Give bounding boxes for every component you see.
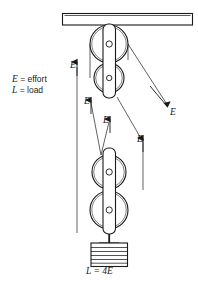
load-hanger: [99, 234, 119, 243]
load-equation-text: L = 4E: [86, 266, 113, 276]
force-label-e3: E: [103, 115, 109, 125]
legend-equals-effort: =: [20, 74, 25, 84]
legend: E = effort L = load: [12, 74, 47, 96]
force-label-e1: E: [70, 60, 76, 70]
legend-meaning-effort: effort: [28, 74, 47, 84]
legend-row-effort: E = effort: [12, 74, 47, 85]
legend-equals-load: =: [20, 85, 25, 95]
legend-meaning-load: load: [27, 85, 43, 95]
lower-movable-block: [90, 148, 128, 234]
force-label-e4: E: [137, 134, 143, 144]
force-label-e2: E: [84, 96, 90, 106]
pulley-diagram-svg: [0, 0, 198, 285]
load-equation-label: L = 4E: [86, 266, 113, 276]
legend-symbol-load: L: [12, 85, 17, 95]
force-label-e5: E: [170, 107, 176, 117]
legend-row-load: L = load: [12, 85, 47, 96]
upper-fixed-block: [90, 24, 128, 98]
pulley-diagram: E = effort L = load E E E E E L = 4E: [0, 0, 198, 285]
force-arrow-e5: [150, 86, 166, 105]
ceiling-beam: [63, 14, 193, 26]
load-weight: [91, 243, 128, 267]
legend-symbol-effort: E: [12, 74, 18, 84]
